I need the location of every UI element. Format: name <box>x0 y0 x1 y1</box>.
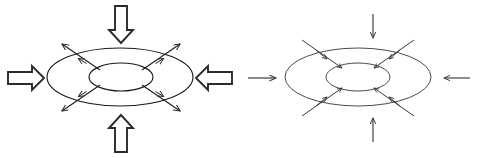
diagram-svg <box>0 0 477 158</box>
block-arrow-top-inward <box>109 6 133 43</box>
outer-ellipse <box>47 48 193 106</box>
compression-torus-diagram <box>256 14 470 142</box>
figure-canvas <box>0 0 477 158</box>
inner-ellipse <box>89 63 153 91</box>
expansion-torus-diagram <box>8 6 232 152</box>
radial-arrow-lower-right <box>374 88 414 116</box>
radial-arrow-upper-left <box>302 40 342 68</box>
radial-arrow-lower-left <box>62 85 100 111</box>
radial-arrow-lower-right <box>142 85 180 111</box>
outer-ellipse <box>285 48 431 106</box>
block-arrow-left-inward <box>8 66 44 90</box>
radial-arrow-lower-left <box>302 88 342 116</box>
block-arrow-bottom-inward <box>109 115 133 152</box>
inner-ellipse <box>326 63 390 91</box>
block-arrow-right-inward <box>196 66 232 90</box>
radial-arrow-upper-right <box>374 40 414 68</box>
